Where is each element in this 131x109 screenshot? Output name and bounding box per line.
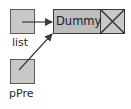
dummy-node-label: Dummy xyxy=(56,16,101,28)
list-label: list xyxy=(12,37,28,48)
ppre-pointer-box xyxy=(11,60,35,84)
ppre-label: pPre xyxy=(9,88,33,99)
linked-list-diagram: Dummy list pPre xyxy=(0,0,131,109)
